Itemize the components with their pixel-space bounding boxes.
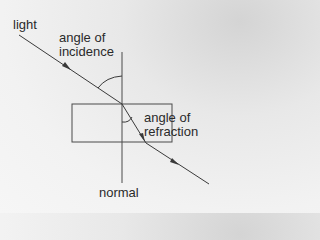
angle-of-incidence-label-2: incidence	[59, 45, 114, 59]
angle-of-incidence-label-1: angle of	[59, 31, 105, 45]
angle-of-refraction-label-2: refraction	[144, 125, 198, 139]
light-label: light	[13, 18, 37, 32]
incident-arrow-icon	[62, 62, 71, 70]
angle-of-refraction-label-1: angle of	[144, 111, 190, 125]
normal-label: normal	[99, 186, 139, 200]
angle-of-incidence-arc	[98, 76, 122, 88]
